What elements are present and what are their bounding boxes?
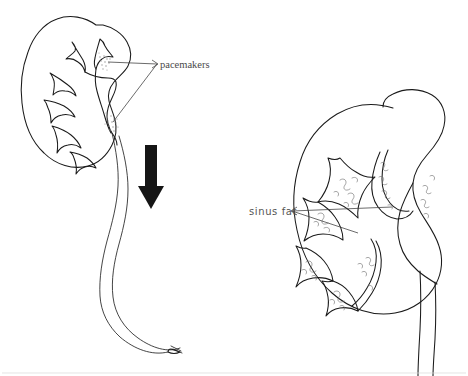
sinus-fat-label: sinus fat xyxy=(249,206,297,217)
right-kidney-pelvis-outline xyxy=(398,183,437,284)
right-kidney-lower-infundibulum-inner xyxy=(352,239,376,306)
right-kidney-calyx-lower-a xyxy=(296,246,333,287)
pacemakers-leader-upper xyxy=(108,62,157,64)
right-kidney-ureter-wall-a xyxy=(418,271,421,376)
pacemakers-annotation: pacemakers xyxy=(108,59,210,122)
arrow-head xyxy=(138,186,164,209)
right-kidney-ureter-wall-b xyxy=(433,282,436,376)
left-kidney-mid-calyx-b xyxy=(44,100,75,123)
left-kidney-mid-calyx-a xyxy=(50,73,76,96)
sinus-fat-annotation: sinus fat xyxy=(249,206,392,233)
right-kidney-upper-infundibulum-inner xyxy=(382,150,409,211)
arrow-shaft xyxy=(145,145,157,189)
pacemakers-label: pacemakers xyxy=(160,59,210,70)
left-kidney-upper-calyx-b xyxy=(94,39,113,69)
left-ureter-wall-medial xyxy=(100,133,168,353)
left-kidney-lower-calyx-a xyxy=(52,126,81,153)
kidney-figure: pacemakers xyxy=(0,0,468,376)
left-kidney-upper-calyx-a xyxy=(66,42,85,72)
flow-arrow xyxy=(138,145,164,209)
right-kidney-calyx-lower-b xyxy=(322,281,358,316)
pacemaker-site-upper xyxy=(98,52,110,70)
right-kidney-group xyxy=(294,90,445,376)
pacemakers-leader-lower xyxy=(113,64,157,122)
left-kidney-group xyxy=(21,17,182,354)
left-kidney-lower-calyx-b xyxy=(70,152,96,174)
right-kidney-lower-infundibulum xyxy=(358,241,381,311)
sinus-fat-leader-lower xyxy=(292,211,358,233)
